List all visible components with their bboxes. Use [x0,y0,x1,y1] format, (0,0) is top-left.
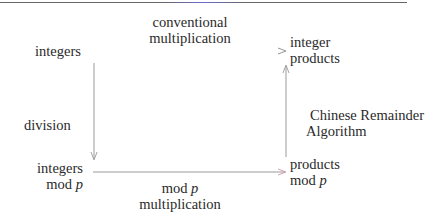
right-arrow [283,65,289,157]
node-products-mod-p: products mod p [290,156,340,188]
edge-label-chinese-remainder-algorithm: Chinese Remainder Algorithm [306,107,424,139]
edge-bottom-line1: mod p [130,180,230,196]
edge-label-division: division [24,117,71,133]
node-integer-products-line1: integer [290,34,340,50]
node-integer-products-line2: products [290,50,340,66]
edge-label-conventional-multiplication: conventional multiplication [130,14,250,46]
node-integers: integers [35,43,81,59]
edge-bottom-line2: multiplication [130,196,230,212]
node-products-mod-p-line2: mod p [290,172,340,188]
node-integers-label: integers [35,43,81,59]
edge-label-mod-p-multiplication: mod p multiplication [130,180,230,212]
edge-right-line2: Algorithm [306,123,424,139]
node-integers-mod-p: integers mod p [30,160,83,192]
top-arrow [96,48,286,54]
node-integers-mod-p-line2: mod p [30,176,83,192]
edge-left-line1: division [24,117,71,133]
left-arrow [91,63,97,160]
edge-top-line2: multiplication [130,30,250,46]
bottom-arrow [93,169,286,175]
edge-top-line1: conventional [130,14,250,30]
node-integers-mod-p-line1: integers [30,160,83,176]
node-integer-products: integer products [290,34,340,66]
node-products-mod-p-line1: products [290,156,340,172]
edge-right-line1: Chinese Remainder [306,107,424,123]
